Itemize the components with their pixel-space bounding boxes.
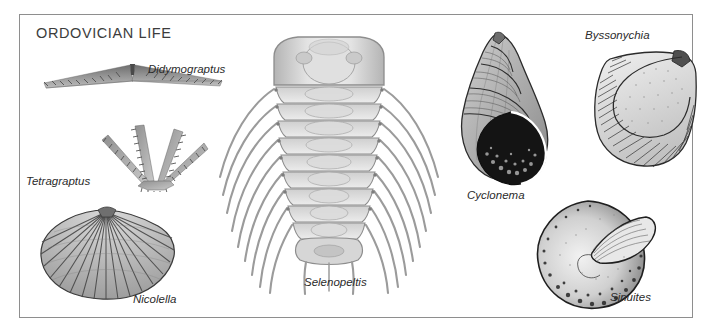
didymograptus-fossil: [34, 55, 234, 97]
specimen-label-nicolella: Nicolella: [133, 293, 176, 305]
specimen-label-byssonychia: Byssonychia: [585, 29, 650, 41]
cyclonema-fossil: [451, 30, 566, 195]
page-title: ORDOVICIAN LIFE: [36, 25, 172, 41]
selenopeltis-fossil: [214, 31, 444, 296]
byssonychia-fossil: [586, 43, 711, 173]
specimen-label-selenopeltis: Selenopeltis: [304, 276, 367, 288]
ordovician-life-plate: ORDOVICIAN LIFE: [19, 14, 693, 318]
tetragraptus-fossil: [78, 107, 228, 192]
specimen-label-cyclonema: Cyclonema: [467, 189, 525, 201]
nicolella-fossil: [36, 202, 181, 302]
specimen-label-didymograptus: Didymograptus: [148, 63, 225, 75]
specimen-label-tetragraptus: Tetragraptus: [26, 175, 90, 187]
specimen-label-sinuites: Sinuites: [610, 291, 651, 303]
